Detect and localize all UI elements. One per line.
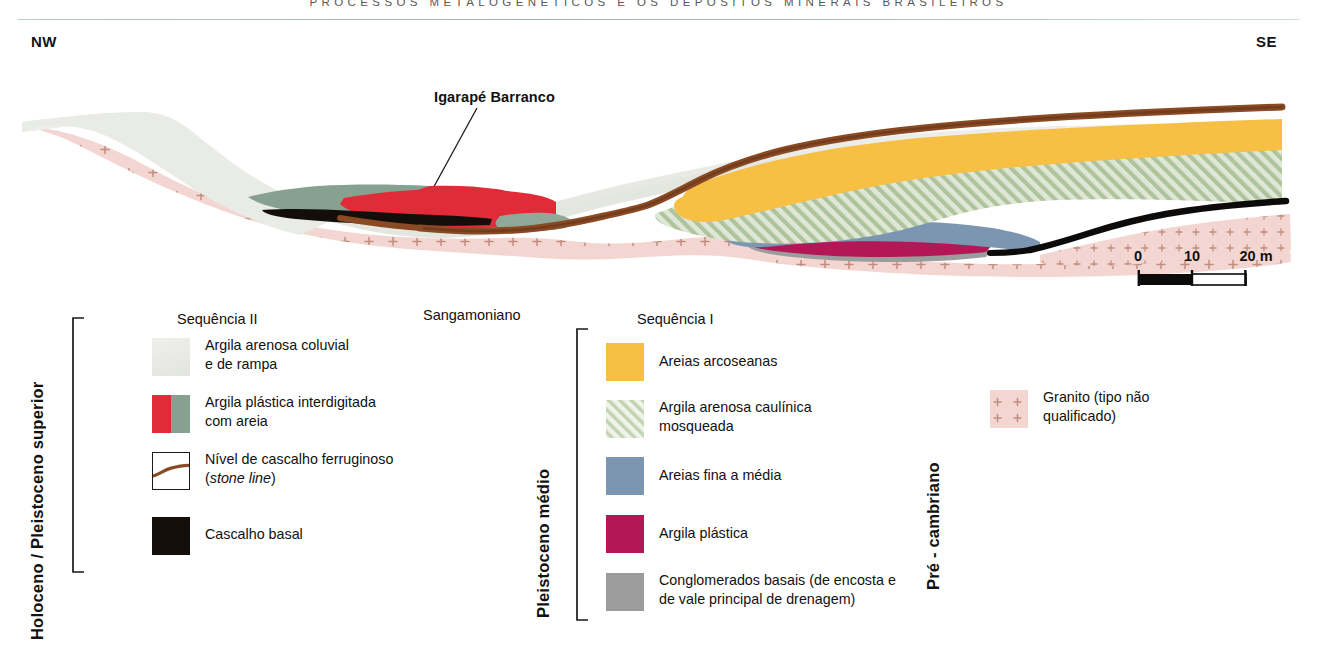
sequence-two-title: Sequência II bbox=[177, 311, 258, 327]
legend-item-plastic-clay[interactable]: Argila plástica bbox=[606, 515, 906, 559]
era-label-middle-pleistocene: Pleistoceno médio bbox=[534, 378, 553, 618]
legend-item-stone-line[interactable]: Nível de cascalho ferruginoso(stone line… bbox=[152, 452, 452, 496]
fine-medium-sand-swatch bbox=[606, 457, 644, 495]
scale-tick-20: 20 m bbox=[1239, 248, 1272, 264]
legend-item-plastic-clay-interdigitated[interactable]: Argila plástica interdigitada com areia bbox=[152, 395, 452, 439]
legend-item-arkosic-sand[interactable]: Areias arcoseanas bbox=[606, 343, 906, 387]
legend-item-label: Argila plástica interdigitada com areia bbox=[205, 393, 376, 430]
sequence-one-title: Sequência I bbox=[637, 311, 714, 327]
granite-swatch bbox=[990, 390, 1028, 428]
legend-item-label: Nível de cascalho ferruginoso(stone line… bbox=[205, 450, 393, 487]
legend-item-granite[interactable]: Granito (tipo não qualificado) bbox=[990, 390, 1270, 434]
scale-bar: 0 10 20 m bbox=[1130, 248, 1290, 294]
legend-item-label: Conglomerados basais (de encosta e de va… bbox=[659, 571, 896, 608]
granite-cross-pattern bbox=[990, 390, 1028, 428]
stone-line-swatch bbox=[152, 452, 190, 490]
basal-conglomerate-swatch bbox=[606, 573, 644, 611]
legend-item-fine-medium-sand[interactable]: Areias fina a média bbox=[606, 457, 906, 501]
era-label-holocene-upper-pleistocene: Holoceno / Pleistoceno superior bbox=[28, 300, 47, 640]
legend-item-basal-gravel[interactable]: Cascalho basal bbox=[152, 517, 452, 561]
plastic-clay-sand-swatch bbox=[152, 395, 190, 433]
geological-cross-section-figure: PROCESSOS METALOGENÉTICOS E OS DEPÓSITOS… bbox=[0, 0, 1317, 663]
scale-tick-10: 10 bbox=[1184, 248, 1200, 264]
legend-item-label: Areias fina a média bbox=[659, 466, 781, 485]
legend-item-label: Areias arcoseanas bbox=[659, 352, 777, 371]
kaolinitic-clay-swatch bbox=[606, 400, 644, 438]
plastic-clay-swatch bbox=[606, 515, 644, 553]
legend-item-label: Cascalho basal bbox=[205, 525, 303, 544]
cross-section-drawing bbox=[0, 0, 1317, 663]
kaolinitic-hatch bbox=[606, 400, 644, 438]
scale-tick-labels: 0 10 20 m bbox=[1130, 248, 1290, 266]
basal-gravel-swatch bbox=[152, 517, 190, 555]
legend-item-label: Argila plástica bbox=[659, 524, 748, 543]
legend-item-label: Argila arenosa coluvial e de rampa bbox=[205, 336, 349, 373]
legend-item-basal-conglomerate[interactable]: Conglomerados basais (de encosta e de va… bbox=[606, 573, 946, 617]
scale-bar-graphic bbox=[1130, 268, 1290, 294]
scale-tick-0: 0 bbox=[1134, 248, 1142, 264]
legend-item-colluvial-clay[interactable]: Argila arenosa coluvial e de rampa bbox=[152, 338, 442, 382]
stone-line-glyph bbox=[153, 453, 189, 489]
colluvial-clay-swatch bbox=[152, 338, 190, 376]
bracket-sequence-two bbox=[68, 316, 86, 574]
arkosic-sand-swatch bbox=[606, 343, 644, 381]
legend-item-label: Argila arenosa caulínica mosqueada bbox=[659, 398, 812, 435]
legend-item-label: Granito (tipo não qualificado) bbox=[1043, 388, 1150, 425]
era-label-precambrian: Pré - cambriano bbox=[924, 360, 943, 590]
bracket-sequence-one bbox=[572, 327, 590, 622]
legend-item-kaolinitic-clay[interactable]: Argila arenosa caulínica mosqueada bbox=[606, 400, 906, 444]
interval-label-sangamoniano: Sangamoniano bbox=[423, 307, 521, 323]
